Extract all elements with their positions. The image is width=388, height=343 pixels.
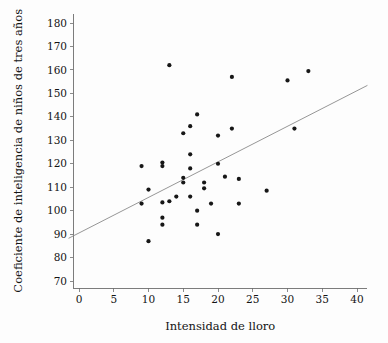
- x-tick-label: 40: [350, 293, 363, 305]
- data-point: [160, 216, 164, 220]
- x-axis-ticks: 0510152025303540: [76, 288, 364, 305]
- data-point: [188, 166, 192, 170]
- data-point: [188, 124, 192, 128]
- y-axis-ticks: 708090100110120130140150160170180: [47, 17, 73, 287]
- data-point: [174, 194, 178, 198]
- data-point: [181, 176, 185, 180]
- data-points-group: [139, 63, 310, 243]
- data-point: [202, 180, 206, 184]
- data-point: [216, 232, 220, 236]
- y-axis-title: Coeficiente de inteligencia de niños de …: [11, 9, 25, 293]
- data-point: [160, 164, 164, 168]
- y-tick-label: 130: [47, 134, 67, 146]
- y-tick-label: 90: [54, 228, 67, 240]
- x-tick-label: 5: [110, 293, 117, 305]
- data-point: [188, 194, 192, 198]
- y-tick-label: 80: [54, 251, 67, 263]
- data-point: [230, 126, 234, 130]
- x-tick-label: 30: [281, 293, 294, 305]
- y-tick-label: 110: [47, 181, 67, 193]
- scatter-plot-figure: 708090100110120130140150160170180 051015…: [0, 0, 388, 343]
- data-point: [146, 239, 150, 243]
- x-tick-label: 25: [246, 293, 259, 305]
- x-axis-title: Intensidad de lloro: [165, 319, 275, 333]
- x-tick-label: 20: [211, 293, 224, 305]
- y-tick-label: 70: [54, 275, 67, 287]
- data-point: [167, 63, 171, 67]
- data-point: [195, 112, 199, 116]
- y-tick-label: 120: [47, 157, 67, 169]
- data-point: [195, 209, 199, 213]
- y-tick-label: 100: [47, 204, 67, 216]
- y-tick-label: 170: [47, 40, 67, 52]
- data-point: [181, 131, 185, 135]
- data-point: [237, 202, 241, 206]
- x-tick-label: 10: [142, 293, 155, 305]
- data-point: [209, 202, 213, 206]
- x-tick-label: 35: [316, 293, 329, 305]
- data-point: [160, 200, 164, 204]
- data-point: [167, 199, 171, 203]
- data-point: [139, 164, 143, 168]
- data-point: [188, 152, 192, 156]
- y-tick-label: 160: [47, 64, 67, 76]
- data-point: [265, 189, 269, 193]
- data-point: [181, 180, 185, 184]
- data-point: [216, 133, 220, 137]
- x-tick-label: 15: [177, 293, 190, 305]
- data-point: [139, 202, 143, 206]
- data-point: [230, 75, 234, 79]
- y-tick-label: 150: [47, 87, 67, 99]
- y-tick-label: 180: [47, 17, 67, 29]
- x-tick-label: 0: [76, 293, 83, 305]
- data-point: [202, 186, 206, 190]
- data-point: [292, 126, 296, 130]
- data-point: [195, 223, 199, 227]
- data-point: [160, 223, 164, 227]
- data-point: [285, 78, 289, 82]
- data-point: [146, 187, 150, 191]
- data-point: [216, 162, 220, 166]
- plot-canvas: 708090100110120130140150160170180 051015…: [0, 0, 388, 343]
- data-point: [237, 177, 241, 181]
- y-tick-label: 140: [47, 110, 67, 122]
- data-point: [306, 69, 310, 73]
- data-point: [223, 175, 227, 179]
